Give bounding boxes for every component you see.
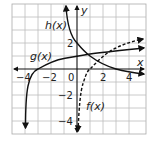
tick-y-minus2: −2: [58, 90, 73, 101]
tick-x-2: 2: [100, 72, 106, 83]
y-axis-label: y: [80, 4, 88, 17]
curve-h: [66, 6, 144, 74]
label-h: h(x): [45, 19, 67, 32]
tick-y-minus4: −4: [58, 116, 73, 127]
tick-x-4: 4: [126, 72, 132, 83]
label-f: f(x): [86, 100, 105, 113]
x-axis-label: x: [136, 56, 144, 69]
label-g: g(x): [30, 50, 52, 63]
curve-f: [78, 39, 143, 131]
tick-origin: 0: [68, 72, 74, 83]
function-graph: −4 −2 0 2 4 2 −2 −4 x y h(x) g(x) f(x): [0, 0, 151, 142]
tick-y-2: 2: [67, 38, 73, 49]
tick-x-minus4: −4: [16, 72, 31, 83]
tick-x-minus2: −2: [42, 72, 57, 83]
